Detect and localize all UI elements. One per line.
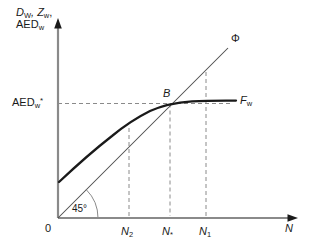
point-b-label: B	[163, 87, 170, 99]
angle-arc	[86, 190, 98, 218]
y-caption-AED: AED	[16, 18, 39, 30]
fw-sub: w	[247, 99, 252, 108]
y-caption-Z-sub: w	[44, 11, 49, 20]
n1-tick-label: N1	[199, 225, 211, 237]
y-axis-caption: DW, Zw, AEDw	[16, 6, 52, 31]
phi-ray-label: Φ	[231, 32, 240, 44]
fw-curve-label: Fw	[240, 94, 252, 106]
phi-45-degree-ray	[58, 48, 228, 218]
chart-canvas	[0, 0, 312, 251]
y-caption-D-sub: W	[24, 11, 31, 20]
y-caption-mid: , Z	[31, 6, 44, 18]
n2-main: N	[121, 225, 129, 237]
n1-main: N	[199, 225, 207, 237]
fw-main: F	[240, 94, 247, 106]
nstar-tick-label: N*	[162, 225, 173, 237]
axes-group	[54, 18, 298, 222]
n2-sub: 2	[129, 230, 133, 239]
aed-star-main: AED	[12, 96, 35, 108]
x-axis-caption: N	[285, 222, 293, 234]
aed-star-tick-label: AEDw*	[12, 96, 43, 109]
angle-45-label: 45°	[72, 203, 87, 214]
y-axis-arrowhead	[54, 18, 62, 29]
n2-tick-label: N2	[121, 225, 133, 237]
y-caption-AED-sub: w	[39, 23, 44, 32]
nstar-sub: *	[170, 230, 173, 239]
fw-curve	[59, 101, 236, 182]
x-axis-arrowhead	[288, 214, 299, 222]
y-caption-comma: ,	[49, 6, 52, 18]
origin-label: 0	[45, 222, 51, 234]
y-caption-D: D	[16, 6, 24, 18]
nstar-main: N	[162, 225, 170, 237]
aed-star-sup: *	[40, 96, 43, 105]
chart-figure: DW, Zw, AEDw AEDw* B Φ Fw 45° 0 N2 N* N1…	[0, 0, 312, 251]
n1-sub: 1	[207, 230, 211, 239]
reference-lines-group	[58, 72, 230, 216]
